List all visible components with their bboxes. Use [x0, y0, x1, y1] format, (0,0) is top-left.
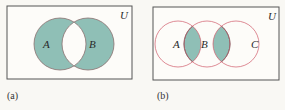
label-a-b: A	[172, 38, 180, 50]
venn-diagram-figure: A B U (a) A B C U (b)	[0, 0, 285, 110]
label-c-b: C	[251, 38, 259, 50]
label-b-b: B	[201, 38, 208, 50]
universe-label-b: U	[268, 10, 277, 22]
universe-label-a: U	[120, 9, 129, 21]
panel-a: A B U (a)	[7, 6, 132, 102]
label-b: B	[89, 38, 96, 50]
caption-a: (a)	[7, 90, 18, 102]
panel-b: A B C U (b)	[153, 7, 279, 102]
caption-b: (b)	[157, 90, 169, 102]
label-a: A	[42, 38, 50, 50]
